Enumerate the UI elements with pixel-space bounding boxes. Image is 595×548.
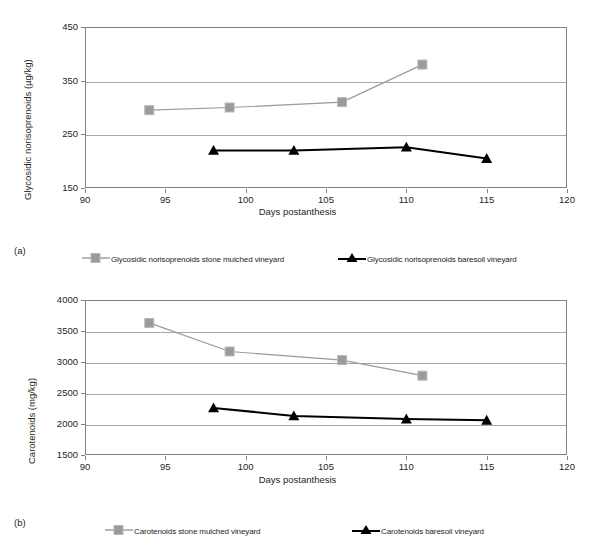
series-1: [145, 60, 427, 115]
x-tick-mark: [85, 189, 86, 193]
y-tick-mark: [81, 331, 85, 332]
series-line: [149, 323, 422, 376]
x-tick-label: 90: [65, 461, 105, 472]
legend-triangle-marker-icon: [338, 252, 366, 266]
data-point-square: [418, 371, 427, 380]
data-point-square: [338, 98, 347, 107]
y-tick-label: 350: [45, 75, 78, 86]
data-point-square: [145, 318, 154, 327]
x-tick-label: 115: [467, 461, 507, 472]
x-tick-mark: [85, 456, 86, 460]
series-line: [149, 65, 422, 111]
data-point-square: [418, 60, 427, 69]
series-line: [214, 408, 487, 420]
y-tick-label: 3000: [45, 356, 78, 367]
y-tick-mark: [81, 424, 85, 425]
chart-b-panel-letter: (b): [14, 517, 26, 528]
x-tick-label: 95: [145, 461, 185, 472]
y-tick-label: 3500: [45, 325, 78, 336]
y-tick-mark: [81, 134, 85, 135]
legend-label: Carotenoids baresoil vineyard: [381, 527, 484, 536]
y-tick-label: 450: [45, 21, 78, 32]
chart-a-panel-letter: (a): [14, 245, 26, 256]
y-tick-label: 1500: [45, 449, 78, 460]
legend-item: Carotenoids stone mulched vineyard: [105, 524, 260, 538]
chart-a-plot: Glycosidic norisoprenoids (µg/kg) Days p…: [0, 0, 595, 230]
y-tick-label: 4000: [45, 294, 78, 305]
x-tick-label: 115: [467, 194, 507, 205]
data-point-square: [225, 103, 234, 112]
x-tick-label: 100: [226, 194, 266, 205]
data-point-square: [225, 347, 234, 356]
x-tick-label: 120: [547, 194, 587, 205]
x-tick-mark: [326, 189, 327, 193]
y-tick-mark: [81, 362, 85, 363]
y-tick-mark: [81, 27, 85, 28]
y-tick-mark: [81, 300, 85, 301]
y-tick-label: 250: [45, 128, 78, 139]
x-tick-mark: [567, 189, 568, 193]
legend-square-marker-icon: [105, 524, 133, 538]
y-tick-label: 2500: [45, 387, 78, 398]
x-tick-mark: [406, 189, 407, 193]
y-tick-label: 2000: [45, 418, 78, 429]
figure-b: Carotenoids (mg/kg) Days postanthesis 15…: [0, 274, 595, 548]
x-tick-label: 100: [226, 461, 266, 472]
x-tick-mark: [165, 456, 166, 460]
y-tick-mark: [81, 81, 85, 82]
legend-label: Glycosidic norisoprenoids stone mulched …: [111, 255, 284, 264]
legend-label: Carotenoids stone mulched vineyard: [134, 527, 260, 536]
series-2: [208, 142, 492, 163]
legend-item: Carotenoids baresoil vineyard: [352, 524, 484, 538]
legend-item: Glycosidic norisoprenoids stone mulched …: [82, 252, 284, 266]
legend-label: Glycosidic norisoprenoids baresoil viney…: [367, 255, 517, 264]
series-2: [208, 402, 492, 424]
x-tick-mark: [165, 189, 166, 193]
x-tick-mark: [406, 456, 407, 460]
x-tick-label: 120: [547, 461, 587, 472]
x-tick-mark: [246, 189, 247, 193]
x-tick-label: 90: [65, 194, 105, 205]
x-tick-mark: [567, 456, 568, 460]
figure-a: Glycosidic norisoprenoids (µg/kg) Days p…: [0, 0, 595, 274]
x-tick-label: 105: [306, 461, 346, 472]
x-tick-label: 95: [145, 194, 185, 205]
x-tick-mark: [326, 456, 327, 460]
x-tick-label: 110: [386, 194, 426, 205]
data-point-square: [145, 106, 154, 115]
x-tick-label: 110: [386, 461, 426, 472]
chart-b-plot: Carotenoids (mg/kg) Days postanthesis 15…: [0, 274, 595, 504]
y-tick-label: 150: [45, 182, 78, 193]
x-tick-mark: [487, 456, 488, 460]
y-tick-mark: [81, 393, 85, 394]
legend-triangle-marker-icon: [352, 524, 380, 538]
legend-square-marker-icon: [82, 252, 110, 266]
x-tick-mark: [487, 189, 488, 193]
x-tick-mark: [246, 456, 247, 460]
series-1: [145, 318, 427, 380]
chart-b-x-axis-label: Days postanthesis: [0, 474, 595, 485]
data-point-square: [338, 356, 347, 365]
chart-a-x-axis-label: Days postanthesis: [0, 206, 595, 217]
legend-item: Glycosidic norisoprenoids baresoil viney…: [338, 252, 517, 266]
x-tick-label: 105: [306, 194, 346, 205]
series-line: [214, 147, 487, 158]
